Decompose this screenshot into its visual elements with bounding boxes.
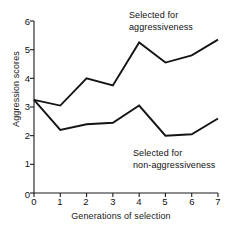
y-axis-ticks xyxy=(30,21,34,193)
data-series xyxy=(34,40,218,136)
line-chart: Aggression scores Generations of selecti… xyxy=(0,0,242,230)
axes xyxy=(30,21,218,197)
x-axis-ticks xyxy=(34,193,218,197)
series-line-aggressiveness xyxy=(34,40,218,106)
plot-area xyxy=(0,0,242,230)
